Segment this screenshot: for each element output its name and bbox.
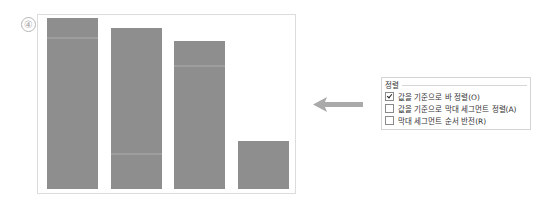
option-label: 값을 기준으로 바 정렬(O)	[398, 91, 480, 102]
option-sort-bars-by-value[interactable]: 값을 기준으로 바 정렬(O)	[385, 91, 480, 102]
segment-divider	[111, 153, 162, 155]
segment-divider	[47, 37, 98, 39]
group-divider	[402, 85, 527, 86]
checkbox-unchecked[interactable]	[385, 116, 394, 125]
sort-group-title: 정렬	[385, 79, 399, 90]
option-reverse-segment-order[interactable]: 막대 세그먼트 순서 반전(R)	[385, 115, 486, 126]
option-sort-segments-by-value[interactable]: 값을 기준으로 막대 세그먼트 정렬(A)	[385, 103, 517, 114]
chart-bar-1[interactable]	[47, 18, 98, 189]
checkbox-checked[interactable]	[385, 92, 394, 101]
sort-options-panel: 정렬 값을 기준으로 바 정렬(O) 값을 기준으로 막대 세그먼트 정렬(A)…	[381, 77, 531, 130]
option-label: 막대 세그먼트 순서 반전(R)	[398, 115, 486, 126]
chart-bar-3[interactable]	[174, 41, 225, 189]
sort-group-header: 정렬	[385, 79, 527, 89]
chart-bar-2[interactable]	[111, 28, 162, 189]
segment-divider	[174, 65, 225, 67]
stacked-bar-chart	[37, 14, 296, 194]
chart-bar-4[interactable]	[238, 141, 289, 189]
arrow-left-icon	[313, 97, 363, 112]
step-number-badge: ④	[21, 17, 36, 32]
checkbox-unchecked[interactable]	[385, 104, 394, 113]
option-label: 값을 기준으로 막대 세그먼트 정렬(A)	[398, 103, 517, 114]
